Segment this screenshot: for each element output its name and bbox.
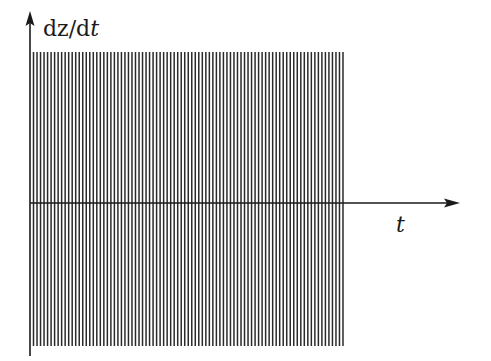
y-axis-label: dz/dt — [43, 16, 99, 41]
x-axis-label: t — [396, 212, 405, 237]
oscillation-lines — [34, 52, 344, 346]
figure: dz/dt t — [0, 0, 491, 361]
